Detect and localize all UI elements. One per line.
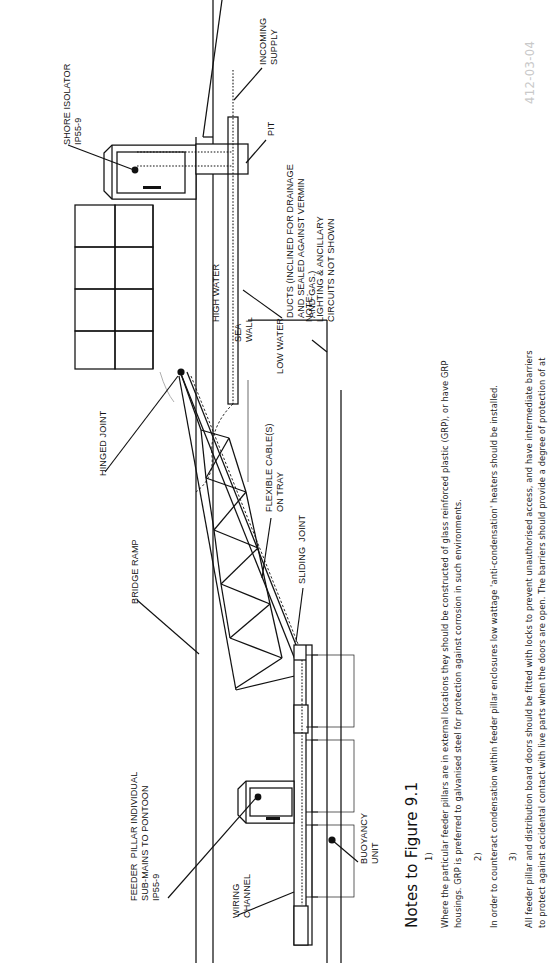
drawing-reference-number: 412-03-04 bbox=[523, 41, 537, 104]
leader-flexible-cable bbox=[262, 518, 271, 578]
quay-panel bbox=[115, 247, 153, 289]
note-1-line-2: housings. GRP is preferred to galvanised… bbox=[452, 499, 465, 928]
buoyancy-unit bbox=[312, 740, 354, 812]
note-3-line-2: to protect against accidental contact wi… bbox=[536, 357, 549, 928]
quay-panel bbox=[75, 289, 115, 331]
label-feeder-pillar: FEEDER PILLAR INDIVIDUAL SUB-MAINS TO PO… bbox=[129, 772, 162, 901]
label-sliding-joint: SLIDING JOINT bbox=[297, 515, 308, 584]
label-high-water: HIGH WATER bbox=[211, 264, 222, 322]
note-3-line-1: All feeder pillar and distribution board… bbox=[523, 350, 536, 928]
truss-chord-seg bbox=[201, 430, 206, 478]
quay-panel bbox=[115, 205, 153, 247]
feeder-pillar-door bbox=[250, 788, 292, 816]
isolator-handle bbox=[143, 186, 161, 189]
note-3-number: 3) bbox=[508, 852, 518, 861]
bridge-ramp-group bbox=[179, 372, 306, 690]
label-bridge-ramp: BRIDGE RAMP bbox=[130, 539, 141, 604]
label-sea-wall: SEA WALL bbox=[233, 317, 255, 342]
wiring-channel-cap-mid bbox=[294, 705, 308, 733]
label-hinged-joint: HINGED JOINT bbox=[98, 411, 109, 476]
feeder-pillar-cabinet bbox=[238, 781, 294, 823]
buoyancy-unit bbox=[312, 655, 354, 727]
label-incoming-supply: INCOMING SUPPLY bbox=[258, 18, 280, 65]
flexible-cable-loop bbox=[196, 404, 233, 492]
figure-page: SHORE ISOLATOR IP55-9 INCOMING SUPPLY PI… bbox=[0, 0, 554, 963]
truss-web bbox=[230, 638, 282, 658]
label-flexible-cables: FLEXIBLE CABLE(S) ON TRAY bbox=[264, 423, 286, 512]
note-1-line-1: Where the particular feeder pillars are … bbox=[439, 361, 452, 929]
label-note-block: NOTE: LIGHTING & ANCILLARY CIRCUITS NOT … bbox=[304, 216, 337, 322]
leader-sliding-joint bbox=[296, 588, 303, 642]
truss-web bbox=[236, 658, 282, 688]
leader-incoming-supply bbox=[234, 68, 262, 100]
quay-panel bbox=[75, 247, 115, 289]
note-2-line-1: In order to counteract condensation with… bbox=[488, 385, 501, 928]
quay-panel bbox=[115, 289, 153, 331]
leader-ducts bbox=[243, 290, 282, 318]
leader-bridge-ramp bbox=[137, 600, 199, 654]
buoyancy-unit bbox=[312, 825, 354, 897]
shore-isolator-cabinet bbox=[104, 145, 196, 199]
label-shore-isolator: SHORE ISOLATOR IP55-9 bbox=[62, 64, 84, 145]
truss-web bbox=[221, 548, 258, 584]
leader-sea-wall bbox=[312, 340, 327, 352]
note-1-number: 1) bbox=[424, 852, 434, 861]
quay-panel bbox=[115, 331, 153, 369]
incoming-supply-group bbox=[228, 70, 238, 404]
pontoon-group bbox=[294, 645, 354, 945]
feeder-pillar-leader-dot bbox=[255, 794, 262, 801]
leader-pit bbox=[246, 140, 266, 163]
leader-hinged-joint bbox=[105, 376, 178, 472]
pit-box bbox=[196, 144, 248, 174]
truss-web bbox=[230, 604, 270, 638]
leader-dot-shore-isolator bbox=[132, 167, 139, 174]
truss-web bbox=[206, 478, 246, 492]
ramp-deck-top bbox=[181, 374, 300, 672]
quay-panel-grid bbox=[75, 205, 153, 369]
label-wiring-channel: WIRING CHANNEL bbox=[231, 874, 253, 918]
quay-panel bbox=[75, 331, 115, 369]
feeder-pillar-handle bbox=[266, 817, 280, 820]
note-2-number: 2) bbox=[473, 852, 483, 861]
label-pit: PIT bbox=[266, 122, 277, 136]
wiring-channel-cap-left bbox=[294, 906, 308, 945]
label-low-water: LOW WATER bbox=[275, 318, 286, 374]
truss-web bbox=[221, 584, 270, 604]
quay-panel bbox=[75, 205, 115, 247]
pontoon-deck bbox=[294, 645, 312, 945]
notes-heading: Notes to Figure 9.1 bbox=[403, 782, 421, 928]
label-buoyancy-unit: BUOYANCY UNIT bbox=[359, 813, 381, 864]
